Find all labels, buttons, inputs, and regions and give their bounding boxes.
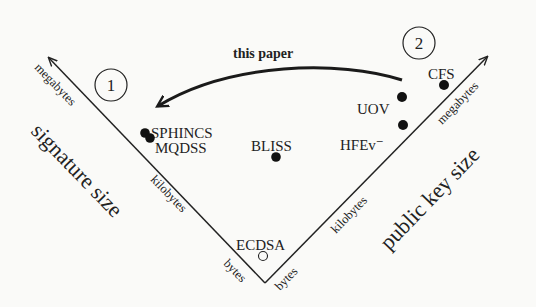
region-2-marker: 2 [403, 27, 435, 59]
region-1-marker: 1 [95, 69, 127, 101]
svg-text:MQDSS: MQDSS [155, 140, 207, 156]
this-paper-label: this paper [233, 46, 293, 61]
svg-text:1: 1 [107, 76, 116, 95]
scheme-bliss: BLISS [251, 138, 292, 162]
svg-text:UOV: UOV [357, 101, 390, 117]
scheme-uov: UOV [357, 92, 407, 117]
svg-text:CFS: CFS [428, 66, 455, 82]
left-tick-kilobytes: kilobytes [148, 172, 190, 215]
tradeoff-diagram: megabytes kilobytes bytes bytes kilobyte… [0, 0, 536, 307]
left-tick-bytes: bytes [221, 256, 249, 285]
right-tick-bytes: bytes [272, 264, 300, 293]
public-key-size-title: public key size [375, 142, 485, 254]
svg-text:BLISS: BLISS [251, 138, 292, 154]
svg-text:ECDSA: ECDSA [236, 237, 285, 253]
svg-text:2: 2 [415, 34, 424, 53]
svg-text:SPHINCS: SPHINCS [151, 125, 213, 141]
signature-size-title: signature size [26, 118, 128, 222]
svg-text:HFEv⁻: HFEv⁻ [340, 137, 384, 153]
scheme-cfs: CFS [428, 66, 455, 90]
scheme-ecdsa: ECDSA [236, 237, 285, 261]
right-tick-kilobytes: kilobytes [328, 193, 370, 236]
left-tick-megabytes: megabytes [32, 60, 79, 108]
